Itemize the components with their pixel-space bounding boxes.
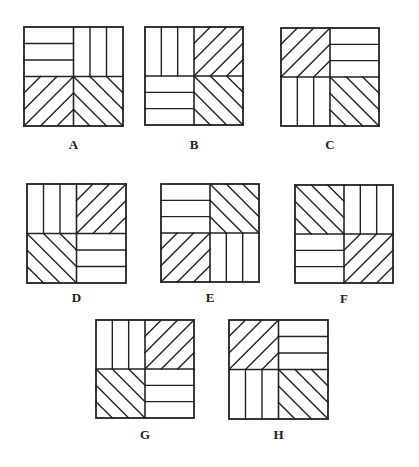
figure-f <box>295 185 393 283</box>
quadrant-br-horizontal-stripes <box>77 250 127 267</box>
figure-label-c: C <box>310 138 350 152</box>
quadrant-tl-diagonal-falling <box>295 185 344 234</box>
quadrant-br-vertical-stripes <box>226 233 242 282</box>
quadrant-tr-diagonal-rising <box>145 320 194 369</box>
figure-label-g: G <box>125 428 165 442</box>
quadrant-tl-horizontal-stripes <box>24 44 74 61</box>
quadrant-bl-vertical-stripes <box>246 370 263 420</box>
figure-h <box>229 320 328 419</box>
figure-label-d: D <box>57 291 97 305</box>
quadrant-tr-diagonal-falling <box>210 184 259 233</box>
quadrant-tl-diagonal-rising <box>229 320 279 370</box>
quadrant-br-horizontal-stripes <box>145 385 194 401</box>
quadrant-tr-horizontal-stripes <box>279 337 329 354</box>
figure-label-f: F <box>324 292 364 306</box>
quadrant-tr-diagonal-rising <box>77 184 127 234</box>
quadrant-bl-horizontal-stripes <box>295 250 344 266</box>
quadrant-tr-vertical-stripes <box>360 185 376 234</box>
figure-b <box>145 27 243 125</box>
figure-e <box>161 184 259 282</box>
figure-c <box>281 28 379 126</box>
figure-a <box>24 27 123 126</box>
figure-g <box>96 320 194 418</box>
figure-label-a: A <box>54 138 94 152</box>
quadrant-tl-diagonal-rising <box>281 28 330 77</box>
quadrant-br-diagonal-falling <box>194 76 243 125</box>
quadrant-bl-vertical-stripes <box>297 77 313 126</box>
figure-canvas <box>0 0 419 467</box>
quadrant-tl-vertical-stripes <box>161 27 177 76</box>
figure-label-e: E <box>190 291 230 305</box>
quadrant-tr-diagonal-rising <box>194 27 243 76</box>
quadrant-bl-diagonal-falling <box>96 369 145 418</box>
quadrant-tl-vertical-stripes <box>112 320 128 369</box>
quadrant-tr-vertical-stripes <box>90 27 107 77</box>
quadrant-br-diagonal-falling <box>279 370 329 420</box>
quadrant-bl-diagonal-rising <box>24 77 74 127</box>
quadrant-bl-diagonal-falling <box>27 234 77 284</box>
quadrant-br-diagonal-rising <box>344 234 393 283</box>
quadrant-bl-diagonal-rising <box>161 233 210 282</box>
quadrant-tr-horizontal-stripes <box>330 44 379 60</box>
figure-d <box>27 184 126 283</box>
figure-label-h: H <box>259 428 299 442</box>
quadrant-bl-horizontal-stripes <box>145 92 194 108</box>
quadrant-tl-horizontal-stripes <box>161 200 210 216</box>
quadrant-br-diagonal-falling <box>74 77 124 127</box>
quadrant-br-diagonal-falling <box>330 77 379 126</box>
quadrant-tl-vertical-stripes <box>44 184 61 234</box>
figure-label-b: B <box>174 138 214 152</box>
